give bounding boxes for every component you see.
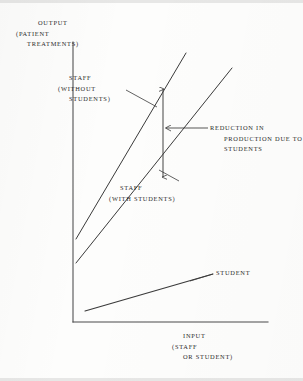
y-axis-title-line-2: (PATIENT bbox=[16, 29, 79, 40]
x-axis-title-line-1: INPUT bbox=[172, 331, 233, 342]
figure-page: OUTPUT (PATIENT TREATMENTS) STAFF (WITHO… bbox=[0, 0, 303, 381]
leader-staff-with-students bbox=[159, 170, 179, 181]
staff-with-students-line-2: (WITH STUDENTS) bbox=[109, 194, 175, 205]
staff-with-students-line-1: STAFF bbox=[109, 183, 175, 194]
y-axis-title-line-1: OUTPUT bbox=[16, 18, 79, 29]
leader-student bbox=[190, 274, 213, 281]
annotation-reduction-in-production: REDUCTION IN PRODUCTION DUE TO STUDENTS bbox=[210, 123, 303, 155]
annotation-student: STUDENT bbox=[216, 268, 250, 279]
reduction-line-3: STUDENTS bbox=[210, 144, 303, 155]
annotation-staff-with-students: STAFF (WITH STUDENTS) bbox=[109, 183, 175, 204]
staff-without-students-line-2: (WITHOUT bbox=[58, 84, 111, 95]
x-axis-title: INPUT (STAFF OR STUDENT) bbox=[172, 331, 233, 363]
reduction-line-2: PRODUCTION DUE TO bbox=[210, 134, 303, 145]
annotation-staff-without-students: STAFF (WITHOUT STUDENTS) bbox=[58, 73, 111, 105]
y-axis-title-line-3: TREATMENTS) bbox=[16, 39, 79, 50]
leader-staff-without-students bbox=[126, 90, 157, 107]
staff-without-students-line-1: STAFF bbox=[58, 73, 111, 84]
staff-without-students-line-3: STUDENTS) bbox=[58, 94, 111, 105]
reduction-line-1: REDUCTION IN bbox=[210, 123, 303, 134]
y-axis-title: OUTPUT (PATIENT TREATMENTS) bbox=[16, 18, 79, 50]
x-axis-title-line-3: OR STUDENT) bbox=[172, 352, 233, 363]
x-axis-title-line-2: (STAFF bbox=[172, 342, 233, 353]
